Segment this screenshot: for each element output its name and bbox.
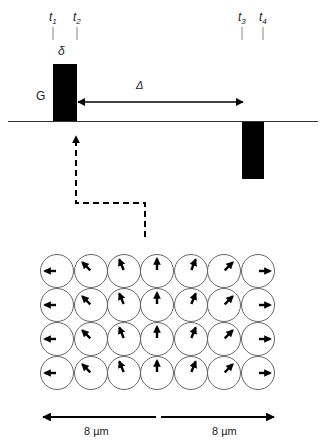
spin-cell: [75, 357, 108, 390]
spin-cell: [75, 323, 108, 356]
spin-cell: [108, 255, 141, 288]
spin-cell: [242, 323, 275, 356]
spin-circle: [75, 255, 108, 288]
spin-circle: [75, 323, 108, 356]
spin-cell: [108, 289, 141, 322]
spin-cell: [175, 255, 208, 288]
spin-cell: [75, 289, 108, 322]
spin-cell: [41, 255, 74, 288]
spin-circle: [108, 255, 141, 288]
spin-cell: [242, 357, 275, 390]
spin-cell: [108, 323, 141, 356]
spin-cell: [41, 357, 74, 390]
scale-label-left: 8 µm: [84, 426, 109, 437]
spin-circle: [175, 289, 208, 322]
spin-cell: [208, 357, 241, 390]
gradient-label: G: [36, 90, 45, 102]
spin-cell: [208, 255, 241, 288]
spin-cell: [141, 357, 174, 390]
second-gradient-pulse: [242, 122, 264, 179]
spin-circle: [175, 255, 208, 288]
pulse-width-label: δ: [58, 45, 65, 57]
spin-circle: [208, 255, 241, 288]
spin-cell: [175, 357, 208, 390]
spin-circle: [208, 323, 241, 356]
spin-cell: [41, 289, 74, 322]
spin-cell: [41, 323, 74, 356]
spin-circle: [208, 357, 241, 390]
spin-cell: [141, 289, 174, 322]
spin-cell: [141, 255, 174, 288]
spin-cell: [108, 357, 141, 390]
spin-cell: [242, 289, 275, 322]
spin-circle: [108, 357, 141, 390]
time-label-t2: t2: [73, 11, 81, 26]
spin-circle: [208, 289, 241, 322]
first-gradient-pulse: [53, 64, 77, 121]
spin-circle: [75, 357, 108, 390]
spin-circle: [108, 323, 141, 356]
time-label-t1: t1: [49, 11, 57, 26]
spin-cell: [208, 289, 241, 322]
spin-cell: [175, 323, 208, 356]
dashed-connector-arrow: [76, 136, 145, 237]
spin-circle: [175, 323, 208, 356]
spin-cell: [141, 323, 174, 356]
spin-circle: [75, 289, 108, 322]
time-label-t3: t3: [238, 11, 246, 26]
spin-cell: [208, 323, 241, 356]
diffusion-diagram: [0, 0, 325, 444]
diffusion-time-label: Δ: [136, 80, 143, 91]
scale-label-right: 8 µm: [212, 426, 237, 437]
time-label-t4: t4: [259, 11, 267, 26]
spin-grid: [41, 255, 275, 390]
spin-cell: [242, 255, 275, 288]
spin-cell: [75, 255, 108, 288]
spin-circle: [108, 289, 141, 322]
spin-cell: [175, 289, 208, 322]
time-ticks: [53, 27, 263, 40]
spin-circle: [175, 357, 208, 390]
